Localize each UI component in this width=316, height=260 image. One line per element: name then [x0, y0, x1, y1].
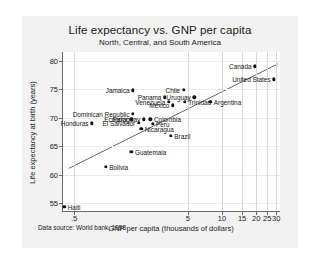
- y-axis-tick: [59, 61, 63, 62]
- data-point: [183, 100, 186, 103]
- data-point-label: Canada: [229, 63, 251, 70]
- gridline-vertical: [276, 52, 277, 211]
- data-point-label: Honduras: [61, 120, 89, 127]
- data-point-label: Guatemala: [135, 149, 166, 156]
- gridline-horizontal: [63, 175, 280, 176]
- data-point: [272, 78, 275, 81]
- data-point-label: Dominican Republic: [73, 110, 130, 117]
- x-axis-tick-label: .5: [71, 214, 77, 223]
- gridline-vertical: [222, 52, 223, 211]
- data-point-label: Bolivia: [109, 163, 128, 170]
- y-axis-title: Life expectancy at birth (years): [26, 52, 38, 212]
- y-axis-tick-label: 65: [50, 142, 58, 151]
- data-point: [209, 100, 212, 103]
- data-point: [182, 88, 185, 91]
- y-axis-tick: [59, 146, 63, 147]
- x-axis-tick-label: 30: [272, 214, 280, 223]
- data-point: [131, 112, 134, 115]
- x-axis-tick-label: 25: [263, 214, 271, 223]
- y-axis-tick-label: 80: [50, 56, 58, 65]
- data-point: [104, 165, 107, 168]
- chart-figure: Life expectancy vs. GNP per capita North…: [22, 16, 298, 248]
- data-point-label: Argentina: [214, 98, 241, 105]
- data-point-label: Trinidad: [188, 98, 211, 105]
- x-axis-tick-label: 10: [218, 214, 226, 223]
- chart-title: Life expectancy vs. GNP per capita: [22, 24, 298, 36]
- y-axis-tick: [59, 118, 63, 119]
- y-axis-tick-label: 75: [50, 85, 58, 94]
- data-point-label: Chile: [166, 86, 181, 93]
- y-axis-tick: [59, 89, 63, 90]
- data-point: [142, 118, 145, 121]
- data-point-label: Uruguay: [167, 94, 191, 101]
- plot-area: .551015202530556065707580HaitiBoliviaGua…: [62, 52, 280, 212]
- y-axis-title-text: Life expectancy at birth (years): [28, 81, 37, 184]
- source-note: Data source: World bank, 1998: [38, 224, 126, 231]
- gridline-horizontal: [63, 146, 280, 147]
- gridline-vertical: [188, 52, 189, 211]
- data-point-label: United States: [232, 76, 270, 83]
- y-axis-tick: [59, 203, 63, 204]
- chart-subtitle: North, Central, and South America: [22, 38, 298, 47]
- x-axis-tick-label: 20: [252, 214, 260, 223]
- data-point: [130, 150, 133, 153]
- data-point-label: Brazil: [174, 133, 190, 140]
- x-axis-tick-label: 15: [238, 214, 246, 223]
- gridline-horizontal: [63, 61, 280, 62]
- y-axis-tick-label: 55: [50, 199, 58, 208]
- screenshot-canvas: Life expectancy vs. GNP per capita North…: [0, 0, 316, 260]
- scan-artifact-band: [0, 0, 316, 14]
- x-axis-tick-label: 5: [186, 214, 190, 223]
- data-point: [90, 122, 93, 125]
- data-point: [131, 89, 134, 92]
- y-axis-tick: [59, 175, 63, 176]
- data-point-label: Jamaica: [106, 87, 130, 94]
- data-point: [169, 134, 172, 137]
- y-axis-tick-label: 70: [50, 113, 58, 122]
- data-point: [171, 103, 174, 106]
- gridline-horizontal: [63, 203, 280, 204]
- data-point-label: Panama: [138, 94, 162, 101]
- data-point: [140, 127, 143, 130]
- data-point-label: Haiti: [68, 203, 81, 210]
- gridline-vertical: [74, 52, 75, 211]
- data-point-label: Peru: [156, 121, 170, 128]
- data-point: [63, 205, 66, 208]
- data-point: [149, 118, 152, 121]
- y-axis-tick-label: 60: [50, 170, 58, 179]
